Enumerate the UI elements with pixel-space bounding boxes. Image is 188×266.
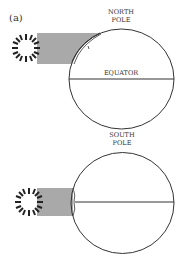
earth-circle-bottom	[71, 153, 174, 254]
north-pole-label-line2: POLE	[112, 16, 131, 24]
equator-label: EQUATOR	[104, 69, 139, 77]
south-pole-label-line2: POLE	[113, 139, 132, 147]
south-pole-label-line1: SOUTH	[109, 131, 135, 139]
sun-icon-bottom	[15, 188, 43, 216]
bottom-diagram: SOUTH POLE	[15, 131, 174, 254]
north-pole-label-line1: NORTH	[108, 8, 134, 16]
panel-label: (a)	[9, 12, 23, 23]
sun-icon	[12, 34, 40, 62]
top-diagram: NORTH POLE EQUATOR	[12, 8, 174, 129]
earth-sunlight-diagram: (a) NOR	[0, 0, 188, 266]
illuminated-strip-bottom	[73, 188, 75, 216]
